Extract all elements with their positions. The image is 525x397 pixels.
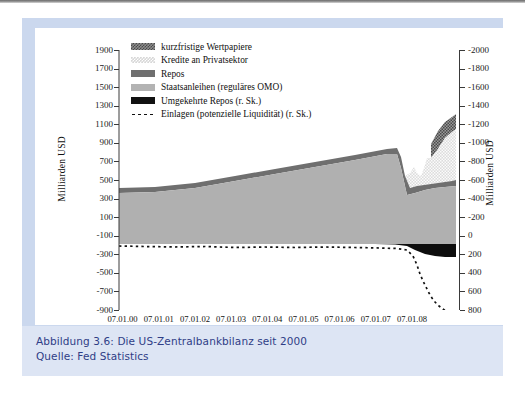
y-left-tick-label: -300 [73, 250, 113, 259]
y-left-tick-label: -700 [73, 287, 113, 296]
y-right-tick [460, 87, 465, 88]
y-left-tick [114, 69, 119, 70]
series-einlagen-dotted [119, 246, 455, 316]
legend-item: Umgekehrte Repos (r. Sk.) [131, 94, 381, 108]
y-right-tick [460, 106, 465, 107]
y-right-tick [460, 180, 465, 181]
y-right-tick-label: -800 [468, 157, 485, 166]
scan-edge-artifact [0, 0, 525, 3]
y-axis-right-title: Milliarden USD [485, 140, 495, 206]
y-left-tick-label: -100 [73, 231, 113, 240]
legend-swatch-icon [131, 43, 155, 50]
y-left-tick [114, 273, 119, 274]
y-left-tick [114, 143, 119, 144]
figure-page: { "caption": { "line1": "Abbildung 3.6: … [0, 0, 525, 397]
legend-item: Repos [131, 67, 381, 81]
y-left-tick [114, 124, 119, 125]
x-axis-tick-label: 07.01.04 [252, 314, 282, 324]
y-left-tick-label: 100 [73, 213, 113, 222]
chart-legend: kurzfristige WertpapiereKredite an Priva… [131, 40, 381, 121]
legend-item: kurzfristige Wertpapiere [131, 40, 381, 54]
x-axis-tick-label: 07.01.00 [108, 314, 138, 324]
legend-item: Kredite an Privatsektor [131, 54, 381, 68]
caption-line-1: Abbildung 3.6: Die US-Zentralbankbilanz … [36, 334, 503, 349]
x-axis-tick-label: 07.01.07 [361, 314, 391, 324]
y-left-tick-label: 1100 [73, 120, 113, 129]
x-axis-tick-label: 07.01.08 [397, 314, 427, 324]
y-right-tick-label: -2000 [468, 46, 489, 55]
figure-caption: Abbildung 3.6: Die US-Zentralbankbilanz … [22, 326, 503, 376]
legend-item-label: Staatsanleihen (reguläres OMO) [161, 82, 282, 92]
legend-item-label: Kredite an Privatsektor [161, 55, 248, 65]
y-right-tick [460, 143, 465, 144]
x-axis-tick-label: 07.01.05 [288, 314, 318, 324]
legend-item-label: Einlagen (potenzielle Liquidität) (r. Sk… [161, 109, 311, 119]
y-left-tick-label: 300 [73, 194, 113, 203]
y-right-tick-label: -400 [468, 194, 485, 203]
x-axis-tick-label: 07.01.03 [216, 314, 246, 324]
y-left-tick [114, 217, 119, 218]
y-left-tick-label: 500 [73, 176, 113, 185]
y-left-tick-label: 1300 [73, 101, 113, 110]
y-right-tick-label: -1400 [468, 101, 489, 110]
series-kredite-an-privatsektor [405, 129, 456, 189]
y-left-tick-label: 700 [73, 157, 113, 166]
y-right-tick-label: 200 [468, 250, 482, 259]
y-left-tick-label: 900 [73, 138, 113, 147]
y-right-tick [460, 217, 465, 218]
y-right-tick [460, 236, 465, 237]
y-right-tick-label: -200 [468, 213, 485, 222]
legend-swatch-icon [131, 111, 155, 118]
y-left-tick [114, 106, 119, 107]
y-left-tick-label: -500 [73, 268, 113, 277]
x-axis-tick-label: 07.01.02 [180, 314, 210, 324]
y-right-tick [460, 310, 465, 311]
y-axis-left-title: Milliarden USD [57, 136, 67, 202]
y-right-tick-label: -1600 [468, 83, 489, 92]
y-left-tick [114, 180, 119, 181]
legend-item: Staatsanleihen (reguläres OMO) [131, 81, 381, 95]
y-right-tick [460, 124, 465, 125]
legend-item-label: Repos [161, 69, 184, 79]
legend-swatch-icon [131, 84, 155, 91]
legend-swatch-icon [131, 97, 155, 104]
caption-line-2: Quelle: Fed Statistics [36, 349, 503, 364]
y-right-tick [460, 69, 465, 70]
y-left-tick [114, 236, 119, 237]
y-left-tick [114, 87, 119, 88]
y-left-tick [114, 291, 119, 292]
y-left-tick [114, 310, 119, 311]
y-right-tick [460, 254, 465, 255]
y-left-tick-label: 1900 [73, 46, 113, 55]
x-axis-tick-label: 07.01.06 [325, 314, 355, 324]
legend-swatch-icon [131, 70, 155, 77]
legend-item-label: kurzfristige Wertpapiere [161, 42, 252, 52]
y-right-tick-label: 400 [468, 268, 482, 277]
legend-swatch-icon [131, 57, 155, 63]
y-left-tick [114, 161, 119, 162]
y-right-tick [460, 199, 465, 200]
y-right-tick-label: -600 [468, 176, 485, 185]
y-right-tick-label: 600 [468, 287, 482, 296]
y-right-tick-label: 800 [468, 306, 482, 315]
y-left-tick-label: 1500 [73, 83, 113, 92]
chart-plot-area: 19001700150013001100900700500300100-100-… [35, 28, 503, 325]
y-right-tick [460, 291, 465, 292]
y-left-tick-label: 1700 [73, 64, 113, 73]
y-right-tick-label: -1200 [468, 120, 489, 129]
y-left-tick [114, 50, 119, 51]
y-right-tick-label: -1800 [468, 64, 489, 73]
legend-item-label: Umgekehrte Repos (r. Sk.) [161, 96, 261, 106]
y-right-tick [460, 50, 465, 51]
legend-item: Einlagen (potenzielle Liquidität) (r. Sk… [131, 108, 381, 122]
y-right-tick [460, 273, 465, 274]
y-left-tick [114, 254, 119, 255]
y-left-tick [114, 199, 119, 200]
y-right-tick-label: 0 [468, 231, 473, 240]
y-right-tick [460, 161, 465, 162]
x-axis-tick-label: 07.01.01 [144, 314, 174, 324]
